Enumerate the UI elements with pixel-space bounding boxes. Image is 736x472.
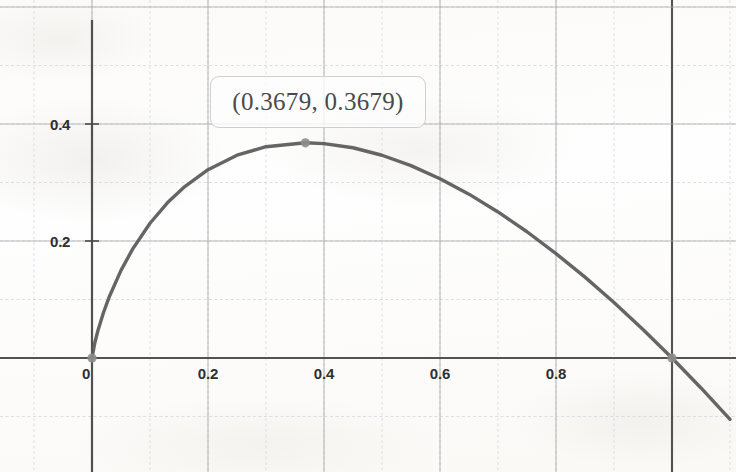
root-point xyxy=(667,353,676,362)
y-tick-label-0: 0.2 xyxy=(50,233,70,250)
x-tick-label-0: 0 xyxy=(82,365,90,382)
maximum-point-label: (0.3679, 0.3679) xyxy=(232,88,403,116)
chart-page: 00.20.40.60.8 0.20.4 (0.3679, 0.3679) xyxy=(0,0,736,472)
x-tick-label-4: 0.8 xyxy=(546,365,566,382)
major-gridlines xyxy=(0,0,736,472)
curve-series xyxy=(92,143,730,420)
x-tick-label-3: 0.6 xyxy=(430,365,450,382)
maximum-point-callout: (0.3679, 0.3679) xyxy=(210,76,426,128)
x-tick-label-1: 0.2 xyxy=(198,365,218,382)
y-tick-label-1: 0.4 xyxy=(50,116,70,133)
plot-canvas xyxy=(0,0,736,472)
origin-point xyxy=(87,353,96,362)
minor-gridlines xyxy=(0,0,736,472)
x-tick-label-2: 0.4 xyxy=(314,365,334,382)
maximum-point xyxy=(301,138,310,147)
